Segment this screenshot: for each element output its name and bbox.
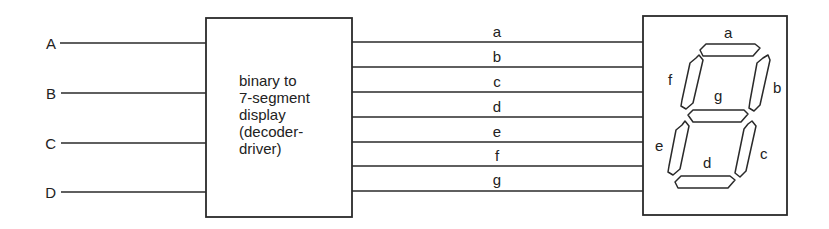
output-label-g: g [487,172,507,187]
decoder-title: binary to 7-segment display (decoder- dr… [239,72,310,157]
decoder-title-line: (decoder- [239,123,310,140]
input-label-c: C [36,136,56,151]
output-label-c: c [487,74,507,89]
decoder-diagram [0,0,829,229]
decoder-title-line: 7-segment [239,89,310,106]
decoder-title-line: binary to [239,72,310,89]
segment-label-b: b [773,80,781,95]
segment-label-a: a [724,25,732,40]
segment-label-e: e [655,138,663,153]
output-label-f: f [487,148,507,163]
output-label-a: a [487,24,507,39]
output-label-e: e [487,124,507,139]
input-label-d: D [36,185,56,200]
input-label-b: B [36,86,56,101]
segment-label-d: d [703,155,711,170]
segment-label-g: g [714,88,722,103]
output-label-d: d [487,99,507,114]
segment-label-c: c [760,146,768,161]
output-label-b: b [487,49,507,64]
segment-label-f: f [668,72,672,87]
decoder-title-line: display [239,106,310,123]
segment-a-icon [700,44,760,56]
segment-g-icon [688,110,748,122]
segment-d-icon [675,176,735,188]
input-label-a: A [36,36,56,51]
decoder-title-line: driver) [239,140,310,157]
